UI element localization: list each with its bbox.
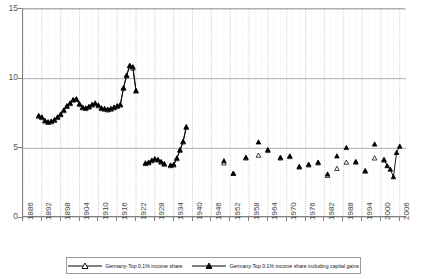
- x-tick-mark: [135, 217, 136, 221]
- data-point-filled: [118, 102, 123, 106]
- data-point-filled: [391, 175, 396, 179]
- x-tick-mark: [305, 217, 306, 221]
- data-point-filled: [184, 124, 189, 128]
- chart-container: 15 10 5 0 188618921898190419101916192219…: [0, 0, 427, 279]
- x-tick-label-1910: 1910: [101, 202, 110, 220]
- data-point-filled: [353, 159, 358, 163]
- data-point-open: [372, 156, 377, 160]
- x-tick-label-1898: 1898: [63, 202, 72, 220]
- x-tick-label-1940: 1940: [195, 202, 204, 220]
- x-tick-mark: [41, 217, 42, 221]
- data-point-filled: [397, 144, 402, 148]
- y-tick-mark: [18, 8, 22, 9]
- x-tick-label-1892: 1892: [44, 202, 53, 220]
- x-tick-label-1988: 1988: [346, 202, 355, 220]
- x-tick-label-1922: 1922: [139, 202, 148, 220]
- data-point-filled: [175, 156, 180, 160]
- data-point-filled: [306, 162, 311, 166]
- data-point-open: [335, 166, 340, 170]
- x-tick-label-1976: 1976: [308, 202, 317, 220]
- x-tick-label-1994: 1994: [365, 202, 374, 220]
- data-point-filled: [74, 97, 79, 101]
- x-tick-label-1886: 1886: [26, 202, 35, 220]
- x-tick-mark: [342, 217, 343, 221]
- data-point-filled: [363, 168, 368, 172]
- y-tick-mark: [18, 217, 22, 218]
- x-tick-label-2006: 2006: [402, 202, 411, 220]
- x-tick-mark: [116, 217, 117, 221]
- x-tick-mark: [229, 217, 230, 221]
- data-point-filled: [335, 154, 340, 158]
- x-tick-mark: [399, 217, 400, 221]
- plot-svg: [23, 9, 406, 218]
- x-tick-label-1934: 1934: [176, 202, 185, 220]
- x-tick-label-1964: 1964: [270, 202, 279, 220]
- gridlines: [23, 9, 406, 218]
- legend-label-income-share-capital-gains: Germany-Top 0.1% income share including …: [229, 263, 358, 269]
- chart-title: [0, 0, 427, 4]
- x-tick-mark: [79, 217, 80, 221]
- data-point-filled: [231, 171, 236, 175]
- data-point-filled: [134, 88, 139, 92]
- data-point-filled: [244, 155, 249, 159]
- x-tick-label-1952: 1952: [233, 202, 242, 220]
- data-point-filled: [121, 85, 126, 89]
- legend-marker-open-triangle: [68, 262, 102, 270]
- legend-marker-filled-triangle: [192, 262, 226, 270]
- x-tick-label-1928: 1928: [157, 202, 166, 220]
- data-point-filled: [344, 145, 349, 149]
- data-point-filled: [93, 101, 98, 105]
- x-tick-label-2000: 2000: [383, 202, 392, 220]
- x-tick-label-1946: 1946: [214, 202, 223, 220]
- data-point-filled: [325, 172, 330, 176]
- y-tick-label-1: 10: [0, 73, 18, 81]
- data-point-filled: [297, 164, 302, 168]
- series-line: [39, 66, 136, 122]
- data-point-filled: [124, 73, 129, 77]
- x-tick-mark: [267, 217, 268, 221]
- plot-area: [22, 8, 405, 217]
- x-tick-mark: [22, 217, 23, 221]
- x-tick-label-1970: 1970: [289, 202, 298, 220]
- x-tick-mark: [286, 217, 287, 221]
- y-tick-label-3: 0: [0, 212, 18, 220]
- data-point-filled: [256, 140, 261, 144]
- data-point-filled: [394, 150, 399, 154]
- x-tick-mark: [210, 217, 211, 221]
- y-tick-label-0: 15: [0, 4, 18, 12]
- chart-legend: Germany-Top 0.1% income share Germany-To…: [66, 257, 361, 274]
- data-point-filled: [372, 142, 377, 146]
- series-line: [39, 65, 136, 121]
- x-tick-mark: [60, 217, 61, 221]
- data-point-filled: [382, 157, 387, 161]
- data-point-open: [344, 160, 349, 164]
- legend-item-income-share[interactable]: Germany-Top 0.1% income share: [68, 262, 182, 270]
- data-point-filled: [222, 159, 227, 163]
- data-point-filled: [385, 163, 390, 167]
- x-tick-mark: [154, 217, 155, 221]
- x-tick-mark: [173, 217, 174, 221]
- legend-item-income-share-capital-gains[interactable]: Germany-Top 0.1% income share including …: [192, 262, 358, 270]
- data-point-open: [256, 153, 261, 157]
- data-point-filled: [316, 160, 321, 164]
- y-tick-label-2: 5: [0, 143, 18, 151]
- x-tick-label-1982: 1982: [327, 202, 336, 220]
- y-tick-mark: [18, 147, 22, 148]
- x-tick-label-1904: 1904: [82, 202, 91, 220]
- x-tick-mark: [248, 217, 249, 221]
- data-point-filled: [288, 154, 293, 158]
- x-tick-mark: [192, 217, 193, 221]
- x-tick-mark: [361, 217, 362, 221]
- legend-label-income-share: Germany-Top 0.1% income share: [105, 263, 182, 269]
- series-layer: [36, 63, 402, 179]
- data-point-filled: [278, 155, 283, 159]
- x-tick-mark: [380, 217, 381, 221]
- y-tick-mark: [18, 78, 22, 79]
- x-tick-label-1916: 1916: [120, 202, 129, 220]
- x-tick-mark: [323, 217, 324, 221]
- x-tick-mark: [97, 217, 98, 221]
- x-tick-label-1958: 1958: [252, 202, 261, 220]
- data-point-filled: [181, 139, 186, 143]
